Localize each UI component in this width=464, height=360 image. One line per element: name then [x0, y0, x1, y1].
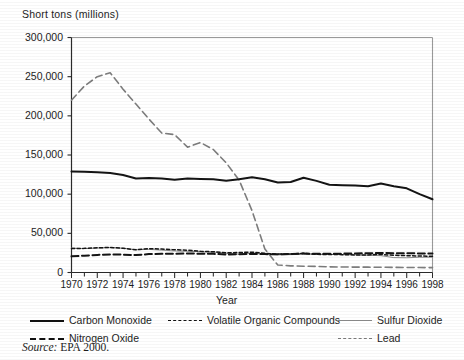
chart-canvas	[0, 0, 464, 360]
x-axis-title: Year	[216, 294, 237, 306]
series-line-carbon-monoxide	[72, 171, 433, 199]
legend-swatch-icon	[168, 316, 202, 324]
y-tick-label: 200,000	[5, 109, 63, 121]
y-tick-label: 250,000	[5, 70, 63, 82]
y-tick-label: 100,000	[5, 187, 63, 199]
source-note: Source: EPA 2000.	[22, 341, 109, 353]
y-tick-label: 0	[5, 266, 63, 278]
legend-swatch-icon	[338, 316, 372, 324]
legend-label: Sulfur Dioxide	[377, 314, 442, 326]
legend-item-volatile-organic-compounds[interactable]: Volatile Organic Compounds	[168, 314, 340, 326]
source-prefix: Source:	[22, 341, 57, 353]
series-line-lead	[72, 73, 433, 268]
y-tick-label: 150,000	[5, 148, 63, 160]
legend-item-sulfur-dioxide[interactable]: Sulfur Dioxide	[338, 314, 442, 326]
x-tick-label: 1998	[416, 279, 450, 290]
y-tick-label: 50,000	[5, 226, 63, 238]
legend-swatch-icon	[338, 334, 372, 342]
legend-label: Volatile Organic Compounds	[207, 314, 340, 326]
source-text: EPA 2000.	[60, 341, 109, 353]
legend-label: Lead	[377, 332, 400, 344]
legend-item-carbon-monoxide[interactable]: Carbon Monoxide	[30, 314, 152, 326]
legend-item-lead[interactable]: Lead	[338, 332, 400, 344]
legend-swatch-icon	[30, 316, 64, 324]
legend-label: Carbon Monoxide	[69, 314, 152, 326]
y-tick-label: 300,000	[5, 31, 63, 43]
